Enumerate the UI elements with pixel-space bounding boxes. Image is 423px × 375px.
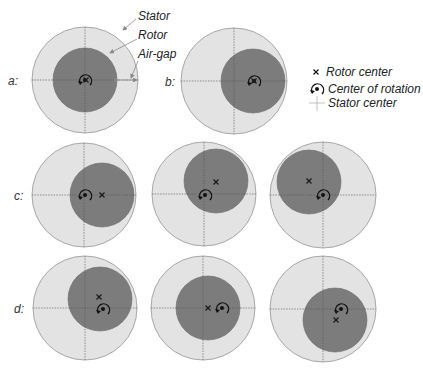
row-label-d: d:: [14, 302, 24, 316]
air-gap-label: Air-gap: [137, 47, 177, 61]
legend: Rotor center Center of rotation Stator c…: [309, 65, 421, 111]
eccentricity-diagram: Stator Rotor Air-gap a: b: Rotor center …: [0, 0, 423, 375]
row-label-b: b:: [165, 75, 175, 89]
case-d: d:: [14, 256, 376, 362]
case-c: c:: [14, 142, 376, 248]
legend-center-of-rotation: Center of rotation: [328, 82, 421, 96]
row-label-a: a:: [8, 74, 18, 88]
rotor-label: Rotor: [138, 28, 168, 42]
legend-rotor-center: Rotor center: [326, 65, 393, 79]
case-b: b:: [165, 28, 287, 134]
stator-label: Stator: [138, 9, 171, 23]
legend-stator-center: Stator center: [328, 96, 398, 110]
row-label-c: c:: [14, 189, 23, 203]
legend-rotation-icon: [310, 84, 324, 94]
legend-rotor-center-icon: [314, 70, 319, 75]
case-a: Stator Rotor Air-gap a:: [8, 9, 177, 133]
